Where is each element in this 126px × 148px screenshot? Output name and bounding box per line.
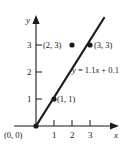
point-label-1-1: (1, 1) [57,95,75,104]
y-tick-label-3: 3 [27,41,32,50]
equation-slope: 1.1 [85,65,96,75]
y-tick-label-2: 2 [27,68,32,77]
point-label-2-3: (2, 3) [43,41,61,50]
data-point-2-3 [69,42,74,47]
data-point-3-3 [87,42,92,47]
x-axis-ticks [54,120,90,126]
x-axis-label: x [114,131,118,140]
y-axis-ticks [36,45,42,99]
data-point-0-0 [33,123,38,128]
point-label-3-3: (3, 3) [94,41,112,50]
x-tick-label-3: 3 [88,131,93,140]
origin-point-label: (0, 0) [4,131,22,140]
y-axis-label: y [26,16,30,25]
y-tick-label-1: 1 [27,95,32,104]
y-axis [32,15,39,126]
equation-intercept: 0.1 [108,65,119,75]
graph-figure: y x 1 2 3 1 2 3 (0, 0) (1, 1) (2, 3) (3,… [0,0,126,148]
equation-label: y = 1.1x + 0.1 [72,66,119,75]
x-axis [14,122,119,129]
x-tick-label-2: 2 [70,131,75,140]
x-tick-label-1: 1 [52,131,57,140]
data-point-1-1 [51,96,56,101]
